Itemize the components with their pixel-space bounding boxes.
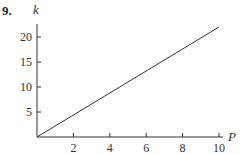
y-tick-label: 20 — [20, 30, 32, 44]
x-tick-label: 2 — [70, 141, 76, 155]
x-tick-label: 8 — [180, 141, 186, 155]
y-tick-label: 5 — [26, 105, 32, 119]
series-line — [37, 27, 219, 137]
ticks: 2468105101520 — [20, 30, 225, 155]
y-tick-label: 10 — [20, 80, 32, 94]
y-axis-label: k — [33, 2, 39, 17]
line-chart: 2468105101520 P k — [0, 0, 242, 155]
x-tick-label: 10 — [213, 141, 225, 155]
x-tick-label: 6 — [143, 141, 149, 155]
data-series — [37, 27, 219, 137]
x-tick-label: 4 — [107, 141, 113, 155]
x-axis-label: P — [227, 129, 236, 144]
y-tick-label: 15 — [20, 55, 32, 69]
